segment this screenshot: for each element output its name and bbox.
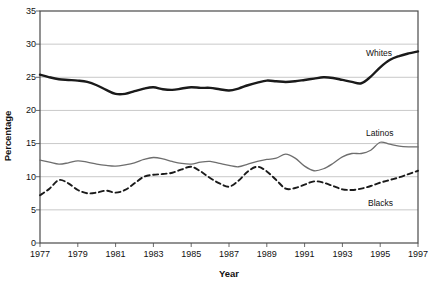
series-line-blacks: [40, 167, 418, 196]
series-line-whites: [40, 51, 418, 94]
axis-ticks: [36, 11, 418, 247]
plot-area: [0, 0, 437, 285]
gridlines: [40, 44, 418, 210]
series-line-latinos: [40, 142, 418, 171]
line-chart: Percentage Year 35 30 25 20 15 10 5 0 19…: [0, 0, 437, 285]
axis-frame: [40, 11, 418, 243]
